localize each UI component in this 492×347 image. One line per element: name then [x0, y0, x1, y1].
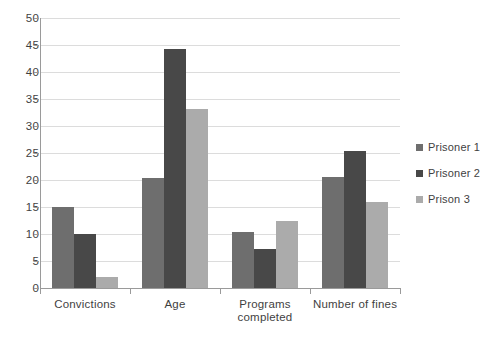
- x-tick-mark: [310, 288, 311, 294]
- x-tick-mark: [400, 288, 401, 294]
- y-tick-mark: [34, 180, 39, 181]
- bar-group: [130, 18, 220, 288]
- bar-group: [220, 18, 310, 288]
- legend-item[interactable]: Prison 3: [416, 193, 480, 205]
- y-tick-mark: [34, 99, 39, 100]
- y-tick-mark: [34, 261, 39, 262]
- y-tick-mark: [34, 45, 39, 46]
- legend: Prisoner 1Prisoner 2Prison 3: [416, 141, 480, 205]
- y-tick-mark: [34, 288, 39, 289]
- bar: [344, 151, 366, 288]
- legend-swatch-icon: [416, 144, 423, 151]
- category-label-line: Programs: [220, 298, 310, 311]
- bar-chart: 05101520253035404550 ConvictionsAgeProgr…: [0, 0, 492, 347]
- y-axis: 05101520253035404550: [0, 18, 39, 288]
- category-label: Programscompleted: [220, 298, 310, 324]
- bar-group: [310, 18, 400, 288]
- bar: [232, 232, 254, 288]
- category-label: Age: [130, 298, 220, 324]
- bar: [322, 177, 344, 288]
- bar: [164, 49, 186, 288]
- y-tick-mark: [34, 126, 39, 127]
- legend-label: Prisoner 1: [428, 141, 480, 153]
- bar-groups: [40, 18, 400, 288]
- x-tick-mark: [40, 288, 41, 294]
- y-tick-mark: [34, 234, 39, 235]
- bar-group: [40, 18, 130, 288]
- category-label: Number of fines: [310, 298, 400, 324]
- category-label-line: Age: [130, 298, 220, 311]
- legend-item[interactable]: Prisoner 1: [416, 141, 480, 153]
- x-tick-mark: [130, 288, 131, 294]
- bar: [276, 221, 298, 288]
- legend-item[interactable]: Prisoner 2: [416, 167, 480, 179]
- bar: [96, 277, 118, 288]
- bar: [366, 202, 388, 288]
- y-tick-mark: [34, 153, 39, 154]
- category-label-line: Number of fines: [310, 298, 400, 311]
- bar: [52, 207, 74, 288]
- bar: [74, 234, 96, 288]
- x-tick-mark: [220, 288, 221, 294]
- y-tick-mark: [34, 72, 39, 73]
- bar: [186, 109, 208, 288]
- legend-swatch-icon: [416, 170, 423, 177]
- legend-label: Prisoner 2: [428, 167, 480, 179]
- y-tick-mark: [34, 18, 39, 19]
- bar: [254, 249, 276, 288]
- category-label-line: completed: [220, 311, 310, 324]
- category-label: Convictions: [40, 298, 130, 324]
- category-labels: ConvictionsAgeProgramscompletedNumber of…: [40, 298, 400, 324]
- legend-label: Prison 3: [428, 193, 470, 205]
- category-label-line: Convictions: [40, 298, 130, 311]
- y-tick-mark: [34, 207, 39, 208]
- legend-swatch-icon: [416, 196, 423, 203]
- bar: [142, 178, 164, 288]
